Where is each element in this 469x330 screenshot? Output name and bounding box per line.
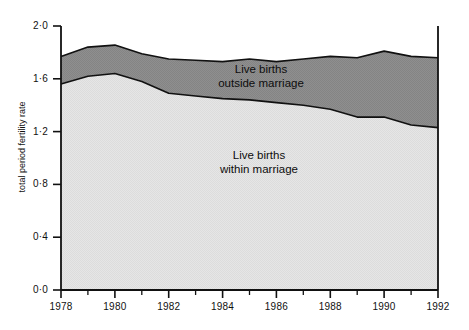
x-tick-label-1978: 1978 — [39, 301, 83, 312]
y-axis-ticks — [53, 26, 61, 290]
x-tick-label-1988: 1988 — [308, 301, 352, 312]
x-tick-label-1984: 1984 — [201, 301, 245, 312]
x-tick-label-1992: 1992 — [416, 301, 460, 312]
x-tick-label-1986: 1986 — [254, 301, 298, 312]
fertility-rate-area-chart: 2·0 1·6 1·2 0·8 0·4 0·0 1978 1980 1982 1… — [0, 0, 469, 330]
x-tick-label-1980: 1980 — [93, 301, 137, 312]
y-axis-title: total period fertility rate — [17, 87, 27, 207]
x-tick-label-1990: 1990 — [362, 301, 406, 312]
x-tick-label-1982: 1982 — [147, 301, 191, 312]
y-tick-label-0-4: 0·4 — [14, 231, 48, 242]
chart-plot-area — [0, 0, 469, 330]
y-tick-label-2-0: 2·0 — [14, 20, 48, 31]
y-tick-label-0-0: 0·0 — [14, 284, 48, 295]
y-tick-label-1-6: 1·6 — [14, 73, 48, 84]
